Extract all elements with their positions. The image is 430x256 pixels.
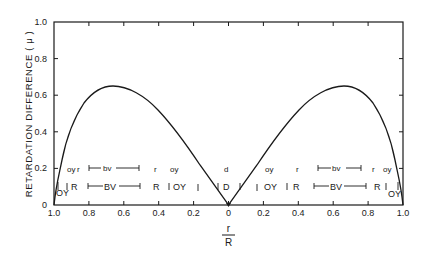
annotation-label: OY [264,182,277,192]
x-tick-label: 1.0 [48,208,61,218]
annotation-label: r [296,165,299,174]
annotation-label: oy [383,165,391,174]
y-tick-label: 0 [42,200,47,210]
x-axis-label-denominator: R [225,237,232,248]
x-tick-label: 0.2 [257,208,270,218]
y-tick-label: 0.8 [34,54,47,64]
x-axis-label: r R [222,223,235,248]
annotation-label: R [71,182,78,192]
annotation-label: BV [104,182,116,192]
upper-annotation-row: oy r bv r oy d oy r bv r oy [67,164,391,174]
annotation-label: OY [388,189,401,199]
x-tick-label: 0 [226,208,231,218]
annotation-label: oy [67,165,75,174]
annotation-label: r [372,165,375,174]
y-tick-labels: 0 0.2 0.4 0.6 0.8 1.0 [34,17,47,210]
annotation-label: OY [173,182,186,192]
bv-range-arrow-left [89,165,139,171]
lower-annotation-row: OY R BV R OY D OY R BV R OY [56,182,401,199]
y-tick-label: 0.2 [34,163,47,173]
x-tick-label: 0.6 [327,208,340,218]
plot-frame [54,22,403,205]
x-tick-label: 0.8 [83,208,96,218]
x-tick-labels: 1.0 0.8 0.6 0.4 0.2 0 0.2 0.4 0.6 0.8 1.… [48,208,410,218]
x-axis-label-numerator: r [227,223,231,234]
annotation-label: R [153,182,160,192]
annotation-label: D [223,182,230,192]
annotation-label: oy [170,165,178,174]
y-axis-ticks [54,59,403,169]
annotation-label: BV [330,182,342,192]
y-axis-label: RETARDATION DIFFERENCE ( μ ) [23,31,34,198]
annotation-label: bv [103,164,111,173]
x-tick-label: 0.8 [362,208,375,218]
annotation-label: bv [332,164,340,173]
annotation-label: oy [265,165,273,174]
retardation-chart: 1.0 0.8 0.6 0.4 0.2 0 0.2 0.4 0.6 0.8 1.… [0,0,430,256]
annotation-label: d [224,165,228,174]
x-tick-label: 0.4 [292,208,305,218]
y-tick-label: 1.0 [34,17,47,27]
x-tick-label: 0.4 [152,208,165,218]
annotation-label: r [154,165,157,174]
annotation-label: R [293,182,300,192]
annotation-label: r [77,165,80,174]
y-tick-label: 0.6 [34,90,47,100]
y-tick-label: 0.4 [34,127,47,137]
x-tick-label: 0.6 [118,208,131,218]
x-tick-label: 0.2 [187,208,200,218]
x-tick-label: 1.0 [397,208,410,218]
annotation-label: R [374,182,381,192]
